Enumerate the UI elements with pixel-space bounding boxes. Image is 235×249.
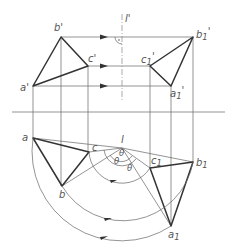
projection-diagram: b' c' a' l' b1' c1' a1' a b c l c1 b1 a1… [0, 0, 235, 249]
label-axis-prime: l' [125, 13, 131, 24]
label-b1-prime: b1' [196, 26, 211, 42]
triangle-front-rotated [150, 37, 193, 86]
label-a1-prime: a1' [170, 85, 184, 101]
label-a-prime: a' [20, 82, 29, 93]
arc-arrows [100, 180, 117, 240]
vertical-projectors [33, 37, 193, 226]
triangle-top-rotated [150, 162, 193, 226]
label-b1: b1 [196, 157, 208, 170]
label-a1: a1 [168, 229, 180, 242]
label-axis: l [121, 134, 124, 145]
label-c: c [92, 142, 98, 153]
label-theta-3: θ [127, 163, 133, 173]
label-c-prime: c' [88, 53, 96, 64]
rotation-arcs [32, 138, 193, 241]
label-c1: c1 [151, 155, 162, 168]
label-theta-1: θ [119, 148, 125, 158]
label-a: a [22, 132, 28, 143]
label-b-prime: b' [54, 22, 63, 33]
triangle-front-original [33, 37, 88, 86]
label-b: b [59, 189, 65, 200]
label-theta-2: θ [114, 156, 120, 166]
